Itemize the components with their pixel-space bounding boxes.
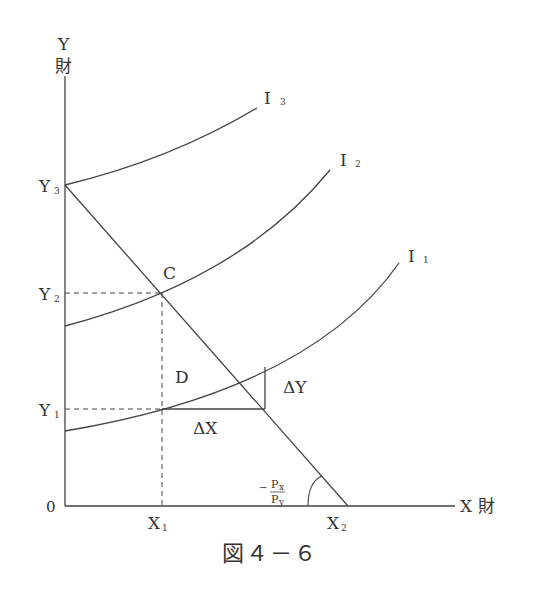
delta-y-label: ΔY bbox=[283, 377, 307, 397]
curve-label-i1: I bbox=[408, 246, 415, 266]
curve-label-i2: I bbox=[340, 150, 347, 170]
slope-denominator: P bbox=[271, 493, 279, 506]
indifference-curve-i2 bbox=[65, 170, 330, 326]
delta-x-label: ΔX bbox=[193, 418, 218, 438]
origin-label: 0 bbox=[46, 498, 56, 516]
slope-numerator-sub: x bbox=[279, 482, 284, 492]
indifference-curve-diagram: Y 財 Y 3 Y 2 Y 1 0 X 1 X 2 X 財 I 3 I 2 I … bbox=[0, 0, 542, 592]
point-c-label: C bbox=[163, 263, 176, 283]
tick-x1-sub: 1 bbox=[162, 523, 168, 533]
y-axis-label-kanji: 財 bbox=[55, 56, 72, 76]
tick-x2-sub: 2 bbox=[341, 523, 347, 533]
curve-label-i3-sub: 3 bbox=[280, 97, 286, 107]
curve-label-i3: I bbox=[264, 88, 271, 108]
tick-y2: Y bbox=[38, 284, 51, 304]
tick-y2-sub: 2 bbox=[54, 294, 60, 304]
x-axis-label: X 財 bbox=[460, 496, 495, 516]
curve-label-i2-sub: 2 bbox=[355, 159, 361, 169]
slope-numerator: P bbox=[271, 478, 279, 491]
curve-label-i1-sub: 1 bbox=[423, 255, 429, 265]
slope-minus: − bbox=[259, 482, 267, 493]
budget-line bbox=[65, 185, 348, 506]
indifference-curve-i1 bbox=[65, 263, 399, 431]
slope-angle-arc bbox=[308, 476, 322, 506]
slope-denominator-sub: y bbox=[278, 497, 285, 507]
y-axis-label: Y bbox=[57, 34, 70, 54]
point-d-label: D bbox=[175, 367, 189, 387]
tick-x1: X bbox=[148, 513, 161, 533]
tick-y1: Y bbox=[38, 400, 51, 420]
tick-y1-sub: 1 bbox=[54, 410, 60, 420]
tick-x2: X bbox=[327, 513, 340, 533]
tick-y3: Y bbox=[38, 176, 51, 196]
figure-caption: 図４－６ bbox=[222, 541, 318, 566]
tick-y3-sub: 3 bbox=[54, 186, 60, 196]
indifference-curve-i3 bbox=[65, 108, 257, 185]
